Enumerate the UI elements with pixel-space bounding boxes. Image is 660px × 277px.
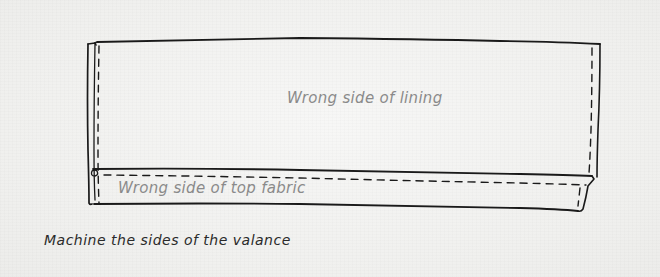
diagram-caption: Machine the sides of the valance (44, 232, 291, 248)
right-stitch-line (589, 48, 592, 173)
top-fabric-label: Wrong side of top fabric (118, 179, 306, 197)
strip-right-stitch-line (578, 188, 580, 206)
folded-left-edge (88, 43, 97, 204)
left-stitch-line (98, 46, 99, 203)
lining-label: Wrong side of lining (287, 89, 442, 107)
lining-panel (93, 38, 600, 177)
